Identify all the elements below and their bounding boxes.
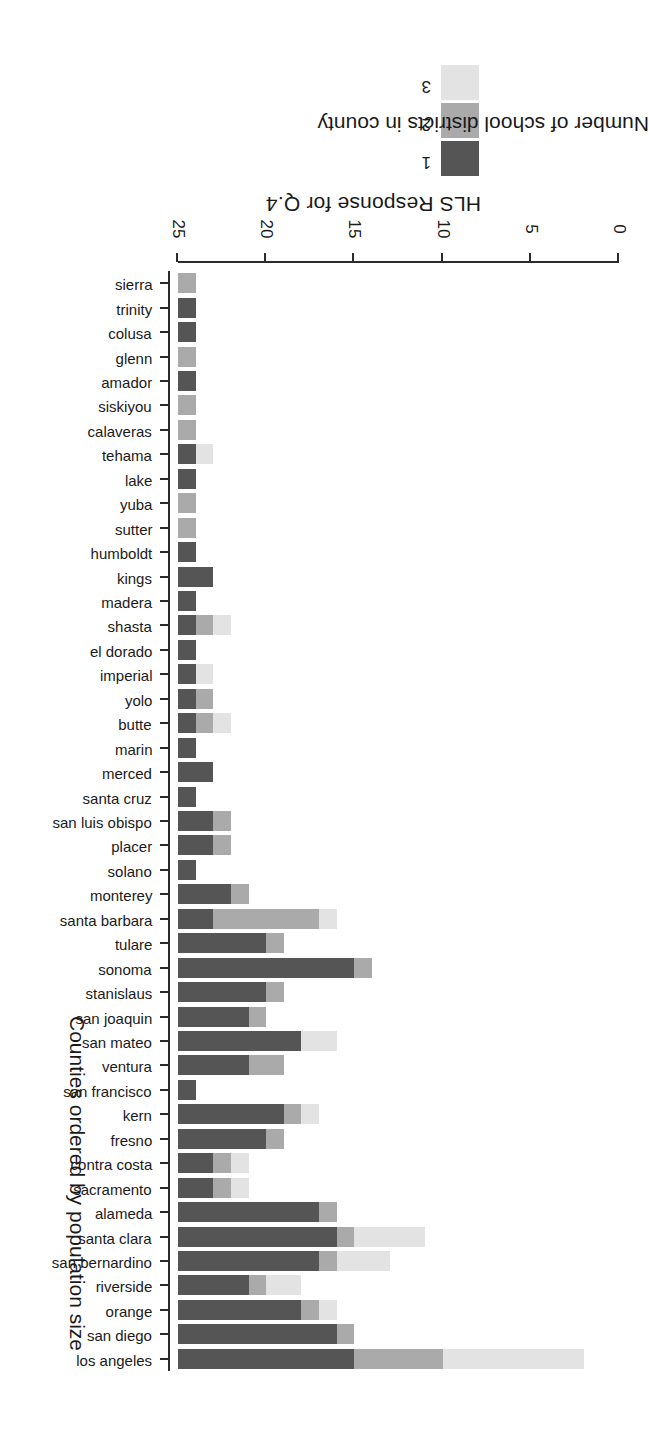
bar-row xyxy=(178,273,619,293)
bar-segment xyxy=(178,542,196,562)
bar-segment xyxy=(178,322,196,342)
bar-segment xyxy=(178,713,196,733)
category-label: el dorado xyxy=(89,643,152,660)
bar-chart-figure: HLS Response for Q.4 1 2 3 0510152025 lo… xyxy=(0,0,649,1446)
bar-segment xyxy=(178,493,196,513)
bar-segment xyxy=(213,713,231,733)
bar-row xyxy=(178,762,619,782)
bar-segment xyxy=(266,982,284,1002)
bar-row xyxy=(178,469,619,489)
value-axis-line xyxy=(178,261,619,263)
category-tick xyxy=(160,1284,169,1286)
category-tick xyxy=(160,331,169,333)
bar-segment xyxy=(178,1178,213,1198)
category-label: fresno xyxy=(110,1132,152,1149)
bar-segment xyxy=(178,469,196,489)
bar-segment xyxy=(337,1324,355,1344)
legend-label-1: 1 xyxy=(422,152,431,172)
category-label: marin xyxy=(114,741,152,758)
bar-segment xyxy=(213,811,231,831)
bar-segment xyxy=(337,1251,390,1271)
category-label: solano xyxy=(108,863,152,880)
category-tick xyxy=(160,967,169,969)
bar-segment xyxy=(266,933,284,953)
bar-segment xyxy=(213,909,319,929)
category-tick xyxy=(160,307,169,309)
category-axis-title: Counties ordered by population size xyxy=(65,1016,89,1351)
bar-segment xyxy=(178,1007,249,1027)
bar-segment xyxy=(178,689,196,709)
bar-segment xyxy=(301,1031,336,1051)
bar-segment xyxy=(178,640,196,660)
plot-area: 0510152025 los angelessan diegoorangeriv… xyxy=(178,271,619,1371)
category-label: tulare xyxy=(114,936,152,953)
bar-segment xyxy=(178,933,266,953)
bar-row xyxy=(178,567,619,587)
bar-row xyxy=(178,1007,619,1027)
category-label: alameda xyxy=(94,1205,152,1222)
category-tick xyxy=(160,600,169,602)
bar-segment xyxy=(354,1227,425,1247)
bar-segment xyxy=(301,1300,319,1320)
category-label: santa cruz xyxy=(83,790,152,807)
bar-segment xyxy=(178,1153,213,1173)
bar-segment xyxy=(196,713,214,733)
bar-segment xyxy=(178,518,196,538)
category-tick xyxy=(160,282,169,284)
legend-swatch-3 xyxy=(441,65,479,100)
bar-segment xyxy=(178,567,213,587)
legend-label-3: 3 xyxy=(422,76,431,96)
legend-item-3: 3 xyxy=(299,64,479,102)
bar-segment xyxy=(178,1300,301,1320)
value-axis-title: Number of school districts in county xyxy=(149,112,649,136)
legend-swatch-1 xyxy=(441,141,479,176)
category-label: calaveras xyxy=(88,423,152,440)
legend-title: HLS Response for Q.4 xyxy=(271,192,481,216)
bar-row xyxy=(178,420,619,440)
bar-row xyxy=(178,909,619,929)
category-label: kern xyxy=(123,1107,152,1124)
bar-row xyxy=(178,518,619,538)
value-tick xyxy=(529,253,531,262)
category-label: santa clara xyxy=(79,1230,152,1247)
category-label: merced xyxy=(102,765,152,782)
category-label: orange xyxy=(105,1303,152,1320)
value-tick-label: 20 xyxy=(256,220,276,239)
category-tick xyxy=(160,942,169,944)
bar-segment xyxy=(354,1349,442,1369)
bar-row xyxy=(178,884,619,904)
category-tick xyxy=(160,527,169,529)
category-label: monterey xyxy=(89,887,152,904)
bar-segment xyxy=(178,958,354,978)
bar-segment xyxy=(178,1324,337,1344)
bar-segment xyxy=(284,1104,302,1124)
bar-row xyxy=(178,1349,619,1369)
category-tick xyxy=(160,551,169,553)
bar-row xyxy=(178,811,619,831)
bar-segment xyxy=(178,1275,249,1295)
category-label: madera xyxy=(101,594,152,611)
bar-segment xyxy=(178,738,196,758)
category-tick xyxy=(160,893,169,895)
category-tick xyxy=(160,1016,169,1018)
category-label: riverside xyxy=(95,1278,152,1295)
bar-segment xyxy=(178,615,196,635)
figure-rotation-wrapper: HLS Response for Q.4 1 2 3 0510152025 lo… xyxy=(0,0,649,1446)
bar-segment xyxy=(178,762,213,782)
bar-segment xyxy=(178,1251,319,1271)
bar-row xyxy=(178,1202,619,1222)
bar-row xyxy=(178,542,619,562)
bar-segment xyxy=(196,615,214,635)
category-tick xyxy=(160,502,169,504)
category-tick xyxy=(160,820,169,822)
category-label: siskiyou xyxy=(99,398,152,415)
bar-segment xyxy=(213,1153,231,1173)
category-tick xyxy=(160,356,169,358)
bar-row xyxy=(178,1104,619,1124)
bar-segment xyxy=(354,958,372,978)
value-tick-label: 25 xyxy=(168,220,188,239)
category-tick xyxy=(160,1138,169,1140)
bar-segment xyxy=(319,1202,337,1222)
category-label: amador xyxy=(101,374,152,391)
category-tick xyxy=(160,722,169,724)
